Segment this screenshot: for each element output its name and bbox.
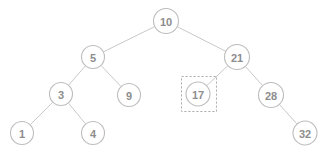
- node-label-9: 9: [126, 90, 132, 102]
- tree-node-4[interactable]: 4: [82, 122, 105, 145]
- tree-nodes: 105213917281432: [11, 9, 318, 146]
- tree-edge-10-21: [178, 27, 226, 51]
- tree-node-9[interactable]: 9: [118, 84, 141, 107]
- tree-node-3[interactable]: 3: [50, 83, 73, 106]
- tree-edges: [30, 27, 296, 125]
- tree-edge-28-32: [280, 105, 297, 124]
- node-label-28: 28: [265, 90, 277, 102]
- tree-edge-3-4: [69, 103, 86, 123]
- tree-canvas: 105213917281432: [0, 0, 327, 153]
- tree-edge-21-28: [246, 67, 263, 86]
- node-label-21: 21: [231, 52, 243, 64]
- tree-edge-21-17: [207, 66, 228, 85]
- tree-node-21[interactable]: 21: [225, 45, 250, 70]
- tree-node-10[interactable]: 10: [154, 9, 179, 34]
- tree-node-17[interactable]: 17: [186, 82, 210, 106]
- node-label-10: 10: [160, 16, 172, 28]
- tree-edge-5-9: [101, 66, 121, 87]
- tree-edge-10-5: [104, 27, 155, 52]
- tree-node-32[interactable]: 32: [293, 121, 317, 145]
- node-label-17: 17: [192, 89, 204, 101]
- node-label-5: 5: [90, 52, 96, 64]
- binary-search-tree-figure: 105213917281432: [0, 0, 327, 153]
- tree-node-1[interactable]: 1: [11, 122, 34, 145]
- node-label-1: 1: [19, 128, 25, 140]
- tree-node-5[interactable]: 5: [82, 46, 105, 69]
- node-label-3: 3: [58, 89, 64, 101]
- tree-edge-5-3: [69, 66, 85, 85]
- node-label-32: 32: [299, 128, 311, 140]
- tree-edge-3-1: [30, 102, 52, 124]
- tree-node-28[interactable]: 28: [259, 83, 284, 108]
